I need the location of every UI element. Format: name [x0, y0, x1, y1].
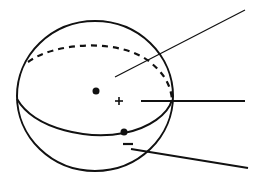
- leader-line-top: [115, 10, 245, 77]
- great-circle-front: [17, 99, 172, 135]
- center-point: [93, 88, 100, 95]
- surface-point: [121, 129, 128, 136]
- plus-sign: [115, 97, 123, 105]
- sphere-outline: [17, 21, 173, 171]
- points: [93, 88, 128, 136]
- great-circle-back-dashed: [28, 45, 172, 99]
- leader-line-bottom: [131, 149, 248, 168]
- sphere-diagram: [0, 0, 261, 181]
- signs: [115, 97, 133, 144]
- leader-lines: [115, 10, 248, 168]
- sphere-diagram-svg: [0, 0, 261, 181]
